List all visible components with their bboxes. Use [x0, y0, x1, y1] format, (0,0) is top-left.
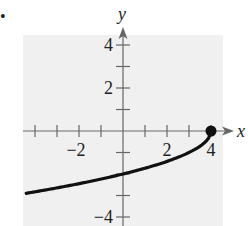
y-tick-label: −4	[94, 207, 113, 226]
x-tick-label: −2	[66, 140, 85, 160]
endpoint-dots	[206, 126, 217, 137]
y-tick-label: 4	[104, 35, 113, 55]
x-axis-label: x	[236, 121, 245, 141]
endpoint-dot	[206, 126, 217, 137]
y-tick-label: 2	[104, 78, 113, 98]
chart: −22442−4 x y	[0, 0, 248, 226]
y-axis-label: y	[116, 4, 126, 24]
x-tick-label: 4	[207, 140, 216, 160]
x-tick-label: 2	[163, 140, 172, 160]
